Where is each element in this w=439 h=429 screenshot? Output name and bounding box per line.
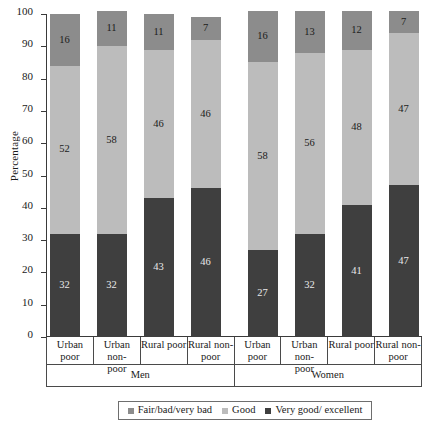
bar-segment: 13 [295, 11, 325, 53]
bar-segment: 43 [144, 198, 174, 337]
bar-stack: 414812 [342, 14, 372, 337]
y-axis-tick-label: 0 [3, 329, 33, 340]
y-axis-tick-label: 70 [3, 103, 33, 114]
y-axis-tick-label: 90 [3, 38, 33, 49]
bar-segment: 58 [97, 46, 127, 233]
legend-item[interactable]: Fair/bad/very bad [128, 405, 212, 416]
group-label: Women [235, 365, 422, 386]
bar-value-label: 32 [304, 280, 315, 291]
legend-swatch-icon [128, 408, 134, 414]
bar-value-label: 32 [106, 280, 117, 291]
bar-value-label: 7 [401, 17, 406, 28]
category-label-row: Urban poorUrban non-poorRural poorRural … [46, 337, 422, 365]
bar-segment: 56 [295, 53, 325, 234]
bar-value-label: 11 [106, 23, 116, 34]
category-label-line: poor [375, 351, 421, 363]
category-label: Urban poor [47, 337, 94, 364]
bar-segment: 7 [389, 11, 419, 34]
bar-segment: 32 [295, 234, 325, 337]
bar-stack: 47477 [389, 14, 419, 337]
y-axis-tick-label: 60 [3, 135, 33, 146]
category-label: Urban poor [235, 337, 282, 364]
bar-segment: 11 [97, 11, 127, 47]
bar-segment: 32 [50, 234, 80, 337]
legend-label: Good [232, 405, 255, 416]
bar-segment: 47 [389, 33, 419, 185]
legend-swatch-icon [222, 408, 228, 414]
bar-segment: 46 [191, 40, 221, 189]
bar-stack: 325216 [50, 14, 80, 337]
category-label-line: Urban poor [47, 339, 93, 363]
chart-legend: Fair/bad/very badGoodVery good/ excellen… [118, 401, 372, 420]
bar-value-label: 47 [398, 104, 409, 115]
bar-segment: 11 [144, 14, 174, 50]
bar-segment: 41 [342, 205, 372, 337]
bar-stack: 325811 [97, 14, 127, 337]
y-axis-tick-label: 100 [3, 6, 33, 17]
bar-series-container: 3252163258114346114646727581632561341481… [46, 14, 422, 337]
legend-label: Fair/bad/very bad [138, 405, 212, 416]
category-label-line: Rural poor [141, 339, 187, 351]
legend-item[interactable]: Very good/ excellent [265, 405, 362, 416]
bar-stack: 46467 [191, 14, 221, 337]
category-label-line: Urban non- [94, 339, 140, 363]
bar-value-label: 52 [59, 144, 70, 155]
bar-segment: 16 [50, 14, 80, 66]
bar-value-label: 46 [200, 257, 211, 268]
category-label-line: Rural non- [188, 339, 234, 351]
bar-segment: 52 [50, 66, 80, 234]
y-axis-tick-label: 50 [3, 168, 33, 179]
bar-value-label: 7 [203, 23, 208, 34]
group-label: Men [47, 365, 235, 386]
bar-value-label: 48 [351, 122, 362, 133]
bar-segment: 58 [248, 62, 278, 249]
category-label-line: Urban poor [235, 339, 281, 363]
y-axis-tick-label: 10 [3, 297, 33, 308]
bar-value-label: 27 [257, 288, 268, 299]
y-axis-tick-label: 30 [3, 232, 33, 243]
bar-segment: 46 [191, 188, 221, 337]
bar-segment: 7 [191, 17, 221, 40]
y-axis-tick-label: 40 [3, 200, 33, 211]
bar-segment: 47 [389, 185, 419, 337]
category-label: Rural poor [141, 337, 188, 364]
category-label-line: Rural non- [375, 339, 421, 351]
y-axis-title: Percentage [8, 116, 20, 196]
bar-segment: 48 [342, 50, 372, 205]
bar-value-label: 58 [257, 151, 268, 162]
bar-value-label: 46 [200, 109, 211, 120]
bar-segment: 32 [97, 234, 127, 337]
legend-item[interactable]: Good [222, 405, 255, 416]
legend-label: Very good/ excellent [275, 405, 362, 416]
stacked-bar-chart: Percentage 0102030405060708090100 325216… [0, 0, 439, 429]
bar-stack: 275816 [248, 14, 278, 337]
bar-segment: 27 [248, 250, 278, 337]
bar-value-label: 58 [106, 135, 117, 146]
category-label: Rural poor [328, 337, 375, 364]
bar-stack: 325613 [295, 14, 325, 337]
bar-value-label: 16 [59, 35, 70, 46]
category-label-line: Urban non- [281, 339, 327, 363]
plot-area: 0102030405060708090100 32521632581143461… [46, 14, 422, 337]
bar-value-label: 41 [351, 266, 362, 277]
bar-value-label: 43 [153, 262, 164, 273]
category-label: Rural non-poor [375, 337, 421, 364]
bar-value-label: 32 [59, 280, 70, 291]
y-axis-tick-label: 80 [3, 71, 33, 82]
bar-value-label: 56 [304, 138, 315, 149]
category-label-line: poor [188, 351, 234, 363]
bar-value-label: 13 [304, 27, 315, 38]
bar-value-label: 47 [398, 256, 409, 267]
bar-segment: 12 [342, 11, 372, 50]
bar-stack: 434611 [144, 14, 174, 337]
bar-value-label: 46 [153, 119, 164, 130]
legend-swatch-icon [265, 408, 271, 414]
category-label: Urban non-poor [281, 337, 328, 364]
bar-segment: 16 [248, 11, 278, 63]
bar-value-label: 11 [153, 27, 163, 38]
category-label-line: Rural poor [328, 339, 374, 351]
bar-segment: 46 [144, 50, 174, 199]
group-label-row: MenWomen [46, 365, 422, 387]
bar-value-label: 12 [351, 25, 362, 36]
category-label: Rural non-poor [188, 337, 235, 364]
